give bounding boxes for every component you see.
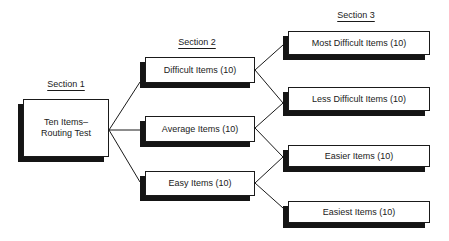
average-items-label: Average Items (10) xyxy=(162,124,238,135)
easier-items-label: Easier Items (10) xyxy=(325,151,394,162)
average-items-box: Average Items (10) xyxy=(145,116,255,142)
routing-test-box: Ten Items– Routing Test xyxy=(23,99,109,157)
easier-items-box: Easier Items (10) xyxy=(288,145,430,167)
difficult-items-box: Difficult Items (10) xyxy=(145,57,255,83)
less-difficult-items-label: Less Difficult Items (10) xyxy=(312,94,406,105)
routing-test-line1: Ten Items– xyxy=(44,117,88,128)
most-difficult-items-box: Most Difficult Items (10) xyxy=(288,31,430,55)
less-difficult-items-box: Less Difficult Items (10) xyxy=(288,87,430,111)
easiest-items-box: Easiest Items (10) xyxy=(288,201,430,223)
routing-test-line2: Routing Test xyxy=(41,128,91,139)
section-3-label: Section 3 xyxy=(326,10,386,20)
section-2-label: Section 2 xyxy=(167,37,227,47)
most-difficult-items-label: Most Difficult Items (10) xyxy=(312,38,406,49)
easiest-items-label: Easiest Items (10) xyxy=(323,207,396,218)
easy-items-label: Easy Items (10) xyxy=(168,178,231,189)
difficult-items-label: Difficult Items (10) xyxy=(164,65,236,76)
easy-items-box: Easy Items (10) xyxy=(145,171,255,196)
section-1-label: Section 1 xyxy=(36,79,96,89)
